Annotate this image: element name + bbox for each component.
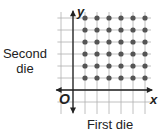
outcome-point xyxy=(94,27,99,32)
outcome-point xyxy=(106,27,111,32)
outcome-point xyxy=(82,75,87,80)
y-axis-title-line2: die xyxy=(0,61,50,76)
outcome-point xyxy=(142,51,147,56)
outcome-point xyxy=(130,39,135,44)
outcome-point xyxy=(106,39,111,44)
outcome-point xyxy=(118,27,123,32)
outcome-point xyxy=(130,75,135,80)
outcome-point xyxy=(118,39,123,44)
outcome-point xyxy=(106,63,111,68)
outcome-point xyxy=(82,39,87,44)
y-axis-arrow-down-icon xyxy=(70,107,76,113)
y-axis-arrow-up-icon xyxy=(70,10,76,16)
y-axis-title-line1: Second xyxy=(0,46,50,61)
origin-label: O xyxy=(59,92,70,107)
outcome-point xyxy=(106,75,111,80)
outcome-point xyxy=(94,75,99,80)
outcome-point xyxy=(118,63,123,68)
outcome-point xyxy=(94,63,99,68)
outcome-point xyxy=(142,39,147,44)
outcome-point xyxy=(94,51,99,56)
outcome-point xyxy=(142,27,147,32)
outcome-point xyxy=(94,15,99,20)
outcome-point xyxy=(142,63,147,68)
y-axis-title: Second die xyxy=(0,46,50,76)
outcome-point xyxy=(130,27,135,32)
x-axis-title: First die xyxy=(70,117,150,131)
outcome-point xyxy=(130,63,135,68)
outcome-point xyxy=(82,63,87,68)
outcome-point xyxy=(82,51,87,56)
outcome-point xyxy=(130,15,135,20)
outcome-point xyxy=(130,51,135,56)
y-axis-letter: y xyxy=(77,4,84,19)
outcome-point xyxy=(118,51,123,56)
outcome-point xyxy=(118,75,123,80)
outcome-point xyxy=(142,15,147,20)
outcome-point xyxy=(82,27,87,32)
outcome-point xyxy=(94,39,99,44)
x-axis-letter: x xyxy=(150,92,157,107)
outcome-point xyxy=(106,51,111,56)
outcome-point xyxy=(106,15,111,20)
outcome-point xyxy=(118,15,123,20)
outcome-point xyxy=(142,75,147,80)
